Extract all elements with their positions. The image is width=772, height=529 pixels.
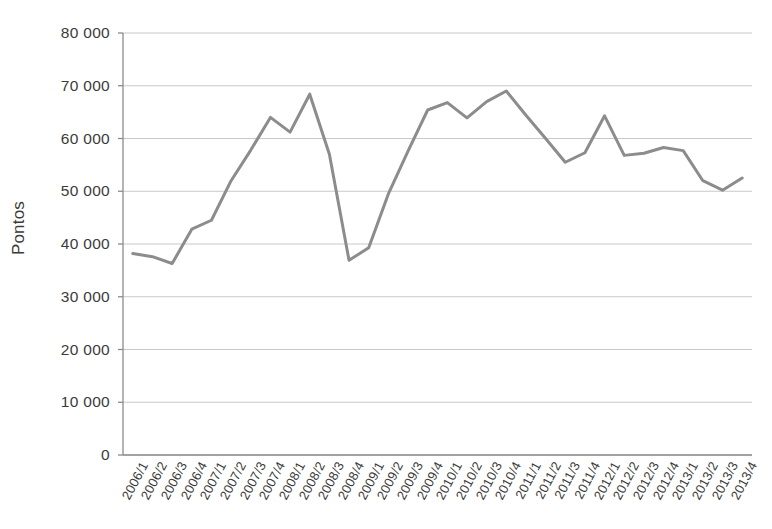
y-axis-title-text: Pontos xyxy=(9,200,29,254)
y-axis-tick-label: 20 000 xyxy=(61,341,110,359)
y-axis-title: Pontos xyxy=(2,0,36,455)
y-axis-tick-labels: 80 00070 00060 00050 00040 00030 00020 0… xyxy=(36,33,116,455)
y-axis-tick-label: 50 000 xyxy=(61,182,110,200)
y-axis-tick-label: 80 000 xyxy=(61,24,110,42)
line-chart: Pontos 80 00070 00060 00050 00040 00030 … xyxy=(0,0,772,529)
y-axis-tick-label: 70 000 xyxy=(61,77,110,95)
x-axis-tick-labels: 2006/12006/22006/32006/42007/12007/22007… xyxy=(123,455,752,529)
y-axis-tick-label: 30 000 xyxy=(61,288,110,306)
y-axis-tick-label: 40 000 xyxy=(61,235,110,253)
plot-area xyxy=(123,33,752,455)
y-axis-tick-label: 0 xyxy=(101,446,110,464)
y-axis-tick-label: 60 000 xyxy=(61,130,110,148)
plot-svg xyxy=(123,33,752,455)
y-axis-tick-label: 10 000 xyxy=(61,393,110,411)
data-series-line xyxy=(133,91,742,264)
gridlines xyxy=(123,33,752,455)
